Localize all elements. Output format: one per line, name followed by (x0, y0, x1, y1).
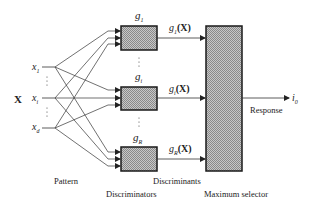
svg-text:g1(X): g1(X) (169, 22, 191, 35)
svg-text:gi(X): gi(X) (169, 83, 190, 96)
svg-text:xi: xi (31, 92, 38, 105)
svg-text:gR: gR (133, 131, 143, 145)
discriminant-label-g1x: g1(X) (169, 22, 191, 35)
pattern-label: Pattern (54, 176, 79, 186)
output-label-i0: i0 (292, 92, 298, 105)
input-vector-label: X (14, 93, 22, 105)
svg-text:g1: g1 (135, 9, 144, 23)
input-xi: xi (31, 92, 38, 105)
svg-text:i0: i0 (292, 92, 298, 105)
input-x1: x1 (31, 61, 39, 74)
discriminator-box-g1 (121, 26, 157, 50)
response-label: Response (250, 105, 283, 115)
maximum-selector-box (206, 26, 242, 171)
discriminator-label-g1: g1 (135, 9, 144, 23)
svg-text:gR(X): gR(X) (169, 143, 192, 156)
discriminator-box-gi (121, 87, 157, 110)
svg-text:gi: gi (135, 70, 143, 84)
input-xd: xd (31, 121, 40, 134)
input-connections (55, 31, 120, 166)
discriminant-label-gRx: gR(X) (169, 143, 192, 156)
discriminator-box-gR (121, 147, 157, 171)
input-stubs (42, 67, 55, 128)
maximum-selector-label: Maximum selector (204, 189, 268, 199)
discriminator-label-gR: gR (133, 131, 143, 145)
discriminator-label-gi: gi (135, 70, 143, 84)
discriminants-label: Discriminants (153, 176, 201, 186)
classifier-diagram: X x1 xi xd g1 gi (0, 0, 313, 209)
discriminators-label: Discriminators (106, 189, 157, 199)
svg-text:x1: x1 (31, 61, 39, 74)
svg-text:xd: xd (31, 121, 40, 134)
discriminant-arrows (157, 38, 205, 159)
input-ellipsis-dots (46, 76, 47, 116)
discriminant-label-gix: gi(X) (169, 83, 190, 96)
